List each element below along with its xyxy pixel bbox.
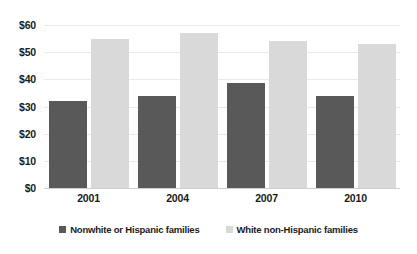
y-axis-tick-label: $30 (19, 101, 36, 113)
legend-swatch-icon (226, 226, 233, 233)
axis-baseline (44, 188, 400, 189)
y-axis-tick-label: $0 (25, 182, 36, 194)
y-axis-tick-label: $20 (19, 128, 36, 140)
legend-item[interactable]: White non-Hispanic families (226, 224, 358, 235)
bar (316, 96, 354, 188)
chart-title (0, 0, 417, 3)
x-axis-tick-label: 2004 (166, 192, 189, 204)
bar-group (316, 25, 396, 188)
x-axis-tick-label: 2001 (77, 192, 100, 204)
legend-label: Nonwhite or Hispanic families (70, 224, 199, 235)
bar (358, 44, 396, 188)
y-axis-tick-label: $10 (19, 155, 36, 167)
bar (91, 39, 129, 188)
bar (269, 41, 307, 188)
x-axis-tick-label: 2007 (255, 192, 278, 204)
x-axis-tick-label: 2010 (344, 192, 367, 204)
bar (49, 101, 87, 188)
bar (180, 33, 218, 188)
bar (227, 83, 265, 188)
y-axis-tick-label: $60 (19, 19, 36, 31)
legend-swatch-icon (59, 226, 66, 233)
y-axis: $0$10$20$30$40$50$60 (0, 25, 40, 188)
bar-group (227, 25, 307, 188)
y-axis-tick-label: $50 (19, 46, 36, 58)
bar-chart-figure: $0$10$20$30$40$50$60 2001200420072010 No… (0, 0, 417, 254)
legend-label: White non-Hispanic families (237, 224, 358, 235)
bar-group (49, 25, 129, 188)
legend-item[interactable]: Nonwhite or Hispanic families (59, 224, 199, 235)
x-axis: 2001200420072010 (44, 192, 400, 212)
bar (138, 96, 176, 188)
chart-legend: Nonwhite or Hispanic familiesWhite non-H… (0, 224, 417, 235)
y-axis-tick-label: $40 (19, 73, 36, 85)
bar-group (138, 25, 218, 188)
bars-layer (44, 25, 400, 188)
